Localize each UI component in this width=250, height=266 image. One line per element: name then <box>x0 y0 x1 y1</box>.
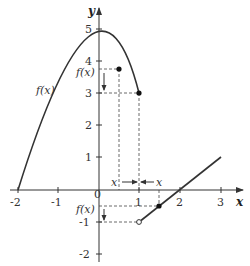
upper-guides <box>99 69 139 190</box>
point-filled <box>136 90 141 95</box>
line-segment <box>141 157 221 221</box>
point-filled <box>156 203 161 208</box>
x-tick-label: -2 <box>10 196 21 209</box>
y-axis-label: y <box>87 4 96 18</box>
curve-label: f(x) <box>35 84 55 97</box>
upper-fx-label: f(x) <box>75 66 95 79</box>
y-tick-label: -1 <box>79 216 90 229</box>
lower-fx-label: f(x) <box>75 203 95 216</box>
lower-guides <box>99 190 159 222</box>
x-tick-label: 1 <box>135 196 142 209</box>
right-x-label: x <box>156 176 163 189</box>
y-tick-label: -2 <box>79 248 90 261</box>
point-open <box>137 220 142 225</box>
parabola-curve <box>18 31 139 190</box>
x-axis-label: x <box>235 195 244 209</box>
function-graph: -2 -1 1 2 3 0 5 4 3 2 1 -1 -2 y x f(x) f… <box>0 0 250 266</box>
x-tick-label: -1 <box>51 196 62 209</box>
y-tick-label: 1 <box>85 151 92 164</box>
y-tick-label: 2 <box>85 119 92 132</box>
left-x-label: x <box>111 176 118 189</box>
point-filled <box>116 66 121 71</box>
y-tick-label: 3 <box>85 87 92 100</box>
origin-label: 0 <box>94 188 101 201</box>
x-tick-label: 2 <box>176 196 183 209</box>
x-tick-label: 3 <box>217 196 224 209</box>
